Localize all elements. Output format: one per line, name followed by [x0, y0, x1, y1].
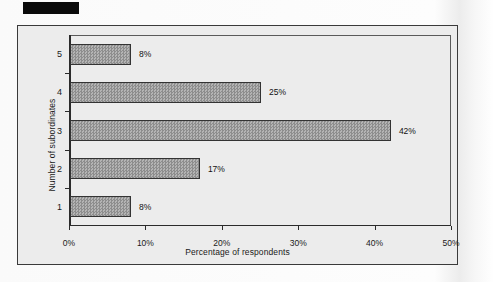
x-axis-tick-label: 10% — [137, 238, 154, 248]
bar-value-label: 8% — [139, 49, 151, 59]
x-axis-tick — [298, 226, 299, 230]
x-axis-tick-label: 20% — [213, 238, 230, 248]
bar[interactable] — [70, 120, 391, 141]
x-axis-tick — [222, 226, 223, 230]
x-axis-tick — [375, 226, 376, 230]
chart-frame: Number of subordinates Percentage of res… — [17, 25, 458, 265]
x-axis-tick — [69, 226, 70, 230]
bar-row: 25% — [70, 82, 452, 103]
y-axis-tick — [65, 73, 69, 74]
y-axis-tick — [65, 150, 69, 151]
bar-row: 8% — [70, 44, 452, 65]
x-axis-tick-label: 50% — [442, 238, 459, 248]
y-axis-tick-label: 2 — [57, 164, 62, 174]
bar[interactable] — [70, 44, 131, 65]
bar[interactable] — [70, 158, 200, 179]
redaction-bar — [23, 2, 79, 14]
bar-value-label: 17% — [208, 164, 225, 174]
bar-row: 8% — [70, 196, 452, 217]
y-axis-tick — [65, 188, 69, 189]
bar-value-label: 25% — [269, 87, 286, 97]
chart-inner: Number of subordinates Percentage of res… — [18, 26, 457, 264]
bar-value-label: 8% — [139, 202, 151, 212]
x-axis-tick — [145, 226, 146, 230]
y-axis-title: Number of subordinates — [47, 99, 57, 192]
x-axis-tick-label: 40% — [366, 238, 383, 248]
x-axis-title: Percentage of respondents — [18, 247, 457, 257]
plot-area: 0%10%20%30%40%50%18%217%342%425%58% — [69, 35, 451, 226]
y-axis-tick-label: 4 — [57, 87, 62, 97]
bar-row: 17% — [70, 158, 452, 179]
bar[interactable] — [70, 82, 261, 103]
x-axis-line — [69, 225, 451, 227]
y-axis-tick-label: 1 — [57, 202, 62, 212]
y-axis-tick-label: 3 — [57, 126, 62, 136]
bar[interactable] — [70, 196, 131, 217]
x-axis-tick-label: 0% — [63, 238, 75, 248]
x-axis-tick-label: 30% — [290, 238, 307, 248]
bar-value-label: 42% — [399, 126, 416, 136]
bar-row: 42% — [70, 120, 452, 141]
y-axis-tick-label: 5 — [57, 49, 62, 59]
x-axis-tick — [451, 226, 452, 230]
y-axis-tick — [65, 111, 69, 112]
